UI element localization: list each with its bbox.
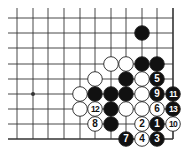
move-number-label: 6 xyxy=(154,103,160,114)
black-stone xyxy=(135,57,150,72)
stone-circle xyxy=(88,87,103,102)
move-number-label: 13 xyxy=(169,104,178,114)
stone-circle xyxy=(135,57,150,72)
move-number-label: 9 xyxy=(154,88,160,99)
stone-circle xyxy=(104,117,119,132)
white-stone-move-10: 10 xyxy=(166,117,181,132)
white-stone xyxy=(135,72,150,87)
move-number-label: 3 xyxy=(154,133,160,144)
stone-circle xyxy=(104,87,119,102)
white-stone-move-12: 12 xyxy=(88,102,103,117)
stone-circle xyxy=(73,102,88,117)
white-stone xyxy=(119,102,134,117)
move-number-label: 11 xyxy=(169,89,177,99)
move-number-label: 4 xyxy=(139,133,145,144)
move-number-label: 1 xyxy=(154,118,160,129)
white-stone-move-6: 6 xyxy=(150,102,165,117)
black-stone-move-5: 5 xyxy=(150,72,165,87)
black-stone xyxy=(104,117,119,132)
white-stone-move-8: 8 xyxy=(88,117,103,132)
stone-circle xyxy=(88,72,103,87)
white-stone-move-2: 2 xyxy=(135,117,150,132)
move-number-label: 2 xyxy=(139,118,145,129)
black-stone xyxy=(119,72,134,87)
stone-circle xyxy=(135,72,150,87)
white-stone xyxy=(119,57,134,72)
white-stone-move-4: 4 xyxy=(135,132,150,147)
stone-circle xyxy=(119,102,134,117)
stone-circle xyxy=(135,87,150,102)
move-number-label: 8 xyxy=(92,118,98,129)
move-number-label: 10 xyxy=(169,119,178,129)
stone-circle xyxy=(104,57,119,72)
go-board: 59111261382110743 xyxy=(0,0,189,154)
stone-circle xyxy=(150,57,165,72)
white-stone xyxy=(73,102,88,117)
stone-circle xyxy=(135,26,150,41)
black-stone xyxy=(104,102,119,117)
stones: 59111261382110743 xyxy=(73,26,181,147)
star-points xyxy=(31,92,35,96)
black-stone-move-7: 7 xyxy=(119,132,134,147)
black-stone-move-13: 13 xyxy=(166,102,181,117)
stone-circle xyxy=(119,57,134,72)
white-stone xyxy=(135,87,150,102)
black-stone-move-11: 11 xyxy=(166,87,181,102)
black-stone-move-3: 3 xyxy=(150,132,165,147)
black-stone xyxy=(150,57,165,72)
stone-circle xyxy=(135,102,150,117)
star-point xyxy=(31,92,35,96)
move-number-label: 12 xyxy=(91,104,100,114)
black-stone xyxy=(119,87,134,102)
white-stone xyxy=(135,102,150,117)
move-number-label: 5 xyxy=(154,73,160,84)
white-stone xyxy=(104,57,119,72)
white-stone xyxy=(88,72,103,87)
black-stone-move-9: 9 xyxy=(150,87,165,102)
black-stone xyxy=(88,87,103,102)
stone-circle xyxy=(119,87,134,102)
white-stone xyxy=(73,87,88,102)
black-stone xyxy=(135,26,150,41)
stone-circle xyxy=(104,102,119,117)
black-stone-move-1: 1 xyxy=(150,117,165,132)
stone-circle xyxy=(73,87,88,102)
stone-circle xyxy=(119,72,134,87)
move-number-label: 7 xyxy=(123,133,129,144)
black-stone xyxy=(104,87,119,102)
